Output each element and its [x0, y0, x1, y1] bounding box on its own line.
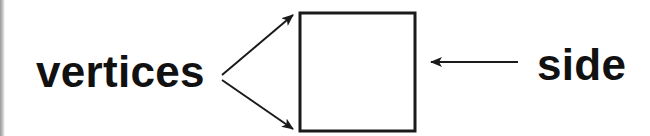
- vertex-arrow-bottom: [222, 80, 293, 129]
- square-shape: [300, 13, 415, 131]
- vertex-arrow-top: [222, 15, 293, 75]
- side-label: side: [537, 43, 626, 87]
- vertices-label: vertices: [36, 50, 205, 94]
